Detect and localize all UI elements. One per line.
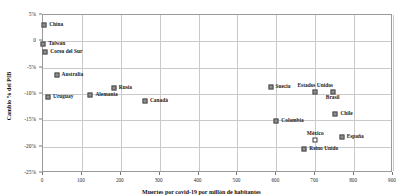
data-point xyxy=(333,112,338,117)
data-point xyxy=(54,73,59,78)
x-axis-tick-label: 200 xyxy=(116,177,124,183)
x-axis-tick-mark xyxy=(275,172,276,175)
x-axis-tick-label: 0 xyxy=(41,177,44,183)
x-axis-tick-label: 700 xyxy=(310,177,318,183)
x-axis-tick-mark xyxy=(392,172,393,175)
data-point-label: Uruguay xyxy=(53,94,73,99)
data-point-label: Brasil xyxy=(326,96,340,101)
x-axis-ticks: 0100200300400500600700800900 xyxy=(42,172,392,186)
y-axis-tick-label: -10% xyxy=(24,90,36,96)
data-point-label: Canadá xyxy=(150,98,168,103)
gridline-horizontal xyxy=(43,41,391,42)
x-axis-tick-label: 300 xyxy=(155,177,163,183)
data-point xyxy=(339,135,344,140)
data-point xyxy=(111,85,116,90)
y-axis-ticks: 5%0-5%-10%-15%-20%-25% xyxy=(0,14,40,172)
data-point xyxy=(88,92,93,97)
scatter-chart: Cambio % del PIB 5%0-5%-10%-15%-20%-25% … xyxy=(0,0,403,196)
plot-area: ChinaTaiwanCorea del SurAustraliaUruguay… xyxy=(42,14,392,172)
data-point-label: Rusia xyxy=(119,85,132,90)
data-point xyxy=(268,85,273,90)
data-point xyxy=(41,41,46,46)
x-axis-tick-mark xyxy=(353,172,354,175)
x-axis-tick-mark xyxy=(159,172,160,175)
data-point-label: Australia xyxy=(62,72,84,77)
data-point-label: Alemania xyxy=(95,92,117,97)
data-point-label: Corea del Sur xyxy=(50,50,82,55)
gridline-vertical xyxy=(393,15,394,171)
gridline-horizontal xyxy=(43,120,391,121)
data-point-label: Suecia xyxy=(276,84,291,89)
data-point xyxy=(274,119,279,124)
data-point xyxy=(46,94,51,99)
data-point xyxy=(313,137,318,142)
x-axis-tick-mark xyxy=(198,172,199,175)
x-axis-tick-mark xyxy=(236,172,237,175)
x-axis-title: Muertes por covid-19 por millón de habit… xyxy=(0,189,403,195)
data-point xyxy=(142,98,147,103)
gridline-horizontal xyxy=(43,147,391,148)
data-point xyxy=(43,50,48,55)
data-point-label: Chile xyxy=(340,111,352,116)
y-axis-tick-label: 5% xyxy=(29,11,36,17)
data-point-label: Reino Unido xyxy=(309,146,338,151)
x-axis-tick-mark xyxy=(42,172,43,175)
data-point-label: China xyxy=(49,22,63,27)
x-axis-tick-mark xyxy=(314,172,315,175)
y-axis-tick-label: -20% xyxy=(24,143,36,149)
x-axis-tick-label: 400 xyxy=(194,177,202,183)
x-axis-tick-label: 500 xyxy=(233,177,241,183)
data-point-label: Estados Unidos xyxy=(297,84,333,89)
data-point-label: Taiwan xyxy=(48,41,65,46)
y-axis-tick-label: -15% xyxy=(24,116,36,122)
data-point xyxy=(42,23,47,28)
gridline-horizontal xyxy=(43,68,391,69)
data-point-label: México xyxy=(307,131,324,136)
x-axis-tick-label: 900 xyxy=(388,177,396,183)
x-axis-tick-label: 100 xyxy=(77,177,85,183)
x-axis-tick-mark xyxy=(120,172,121,175)
data-point-label: Colombia xyxy=(281,119,303,124)
x-axis-tick-label: 800 xyxy=(349,177,357,183)
x-axis-tick-mark xyxy=(81,172,82,175)
y-axis-tick-label: -25% xyxy=(24,169,36,175)
data-point xyxy=(302,146,307,151)
data-point-label: España xyxy=(347,134,364,139)
x-axis-tick-label: 600 xyxy=(271,177,279,183)
data-point xyxy=(313,90,318,95)
y-axis-tick-label: -5% xyxy=(27,64,36,70)
y-axis-tick-label: 0 xyxy=(33,37,36,43)
